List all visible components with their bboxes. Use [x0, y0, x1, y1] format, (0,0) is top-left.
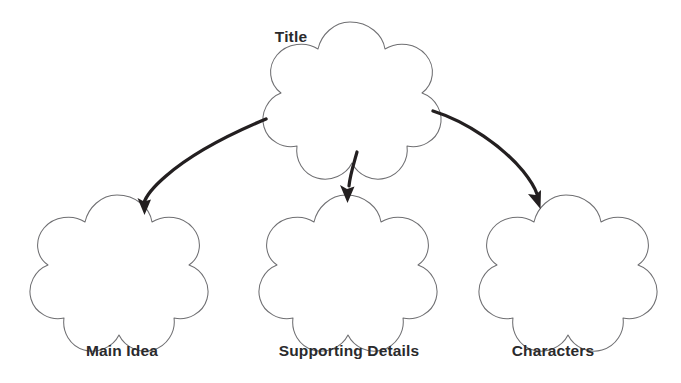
- node-main-idea[interactable]: [30, 195, 208, 351]
- node-label-main-idea: Main Idea: [62, 343, 182, 359]
- node-supporting-details[interactable]: [259, 195, 437, 351]
- cloud-shape-main-idea: [30, 195, 208, 351]
- graphic-organizer-diagram: [0, 0, 681, 383]
- diagram-canvas: Title Main Idea Supporting Details Chara…: [0, 0, 681, 383]
- cloud-shape-title: [263, 22, 441, 179]
- node-label-supporting-details: Supporting Details: [254, 343, 444, 359]
- connector-title-to-characters: [433, 111, 541, 209]
- node-label-characters: Characters: [483, 343, 623, 359]
- connector-title-to-main-idea: [138, 119, 267, 215]
- node-label-title: Title: [236, 29, 346, 45]
- cloud-shape-characters: [479, 195, 657, 351]
- arrow-head-right: [528, 190, 541, 209]
- node-title[interactable]: [263, 22, 441, 179]
- arrow-curve-right: [433, 111, 537, 194]
- arrow-curve-left: [144, 119, 266, 203]
- node-characters[interactable]: [479, 195, 657, 351]
- cloud-shape-supporting-details: [259, 195, 437, 351]
